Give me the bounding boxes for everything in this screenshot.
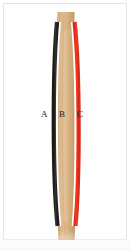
figure-root: A B C (0, 0, 130, 251)
label-c: C (77, 110, 83, 119)
wood-bottom-shadow (58, 239, 75, 240)
label-a: A (41, 110, 48, 119)
bent-strip-illustration (0, 0, 130, 251)
label-b: B (59, 110, 65, 119)
